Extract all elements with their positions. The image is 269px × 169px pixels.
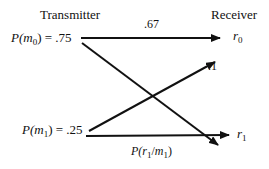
symbol-m: m xyxy=(23,30,32,45)
edge-label-m1-r0: .1 xyxy=(208,59,217,74)
prob-value: ) = .75 xyxy=(37,30,71,45)
subscript: 1 xyxy=(242,133,247,143)
symbol-m: m xyxy=(34,122,43,137)
prob-suffix: ) xyxy=(168,144,172,158)
prob-prefix: P( xyxy=(131,144,142,158)
subscript: 0 xyxy=(238,35,243,45)
receiver-label: Receiver xyxy=(211,7,257,23)
edge-m1-r1 xyxy=(86,135,229,136)
prob-prefix: P( xyxy=(11,30,23,45)
edge-m1-r0 xyxy=(89,62,215,131)
edge-label-m0-r0: .67 xyxy=(144,17,159,32)
input-m0-probability: P(m0) = .75 xyxy=(11,30,72,46)
output-r0: r0 xyxy=(233,28,243,44)
output-r1: r1 xyxy=(237,126,247,142)
edge-label-m1-r1: P(r1/m1) xyxy=(131,144,172,159)
symbol-m: m xyxy=(155,144,164,158)
edge-m0-r1 xyxy=(82,43,218,145)
prob-prefix: P( xyxy=(22,122,34,137)
prob-value: ) = .25 xyxy=(48,122,82,137)
transmitter-label: Transmitter xyxy=(40,7,100,23)
input-m1-probability: P(m1) = .25 xyxy=(22,122,83,138)
